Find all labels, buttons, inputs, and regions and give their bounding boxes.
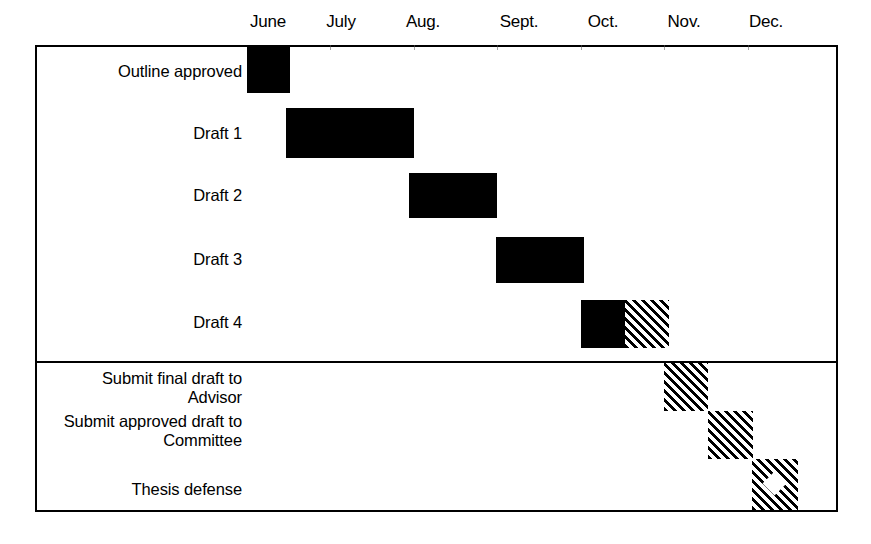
bar-submit-approved-draft-to-committee	[708, 411, 753, 459]
month-tick-oct	[581, 45, 582, 50]
row-label-draft-2: Draft 2	[50, 186, 242, 205]
thesis-defense-milestone-marker	[762, 471, 786, 495]
row-label-thesis-defense: Thesis defense	[50, 480, 242, 499]
bar-submit-final-draft-to-advisor	[664, 363, 708, 411]
section-divider	[35, 361, 838, 363]
bar-thesis-defense	[752, 459, 798, 510]
row-label-draft-1: Draft 1	[50, 124, 242, 143]
bar-draft-2	[409, 173, 497, 218]
month-label-june: June	[228, 12, 308, 32]
row-label-draft-3: Draft 3	[50, 250, 242, 269]
month-tick-dec	[748, 45, 749, 50]
bar-outline-approved	[247, 46, 290, 93]
row-label-submit-approved-draft-to-committee: Submit approved draft to Committee	[30, 412, 242, 450]
bar-draft-3	[496, 237, 584, 283]
month-tick-nov	[664, 45, 665, 50]
bar-draft-1	[286, 108, 414, 158]
month-axis-header: June July Aug. Sept. Oct. Nov. Dec.	[0, 0, 871, 45]
month-label-july: July	[301, 12, 381, 32]
month-tick-sept	[497, 45, 498, 50]
month-tick-july	[330, 45, 331, 50]
month-label-aug: Aug.	[383, 12, 463, 32]
month-label-nov: Nov.	[644, 12, 724, 32]
bar-draft-4-hatched	[625, 300, 669, 348]
row-label-submit-final-draft-to-advisor: Submit final draft to Advisor	[40, 369, 242, 407]
month-tick-aug	[414, 45, 415, 50]
gantt-chart: June July Aug. Sept. Oct. Nov. Dec. Outl…	[0, 0, 871, 544]
month-label-sept: Sept.	[479, 12, 559, 32]
row-label-outline-approved: Outline approved	[50, 62, 242, 81]
month-label-dec: Dec.	[726, 12, 806, 32]
bar-draft-4-solid	[581, 300, 625, 348]
row-label-draft-4: Draft 4	[50, 313, 242, 332]
month-label-oct: Oct.	[563, 12, 643, 32]
